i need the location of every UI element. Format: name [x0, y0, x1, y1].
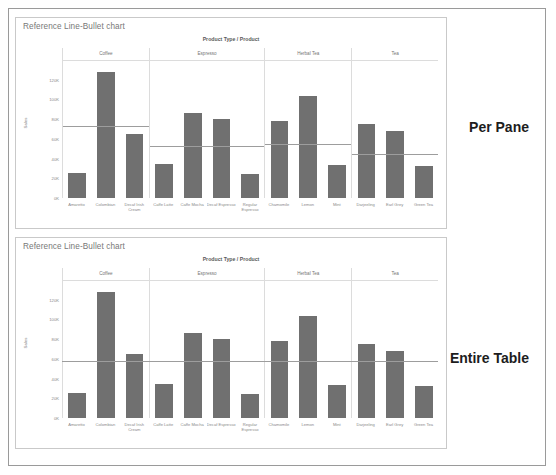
bar-slot	[294, 280, 323, 418]
chart-per-pane[interactable]: Reference Line-Bullet chart Product Type…	[15, 17, 447, 229]
pane-herbal-tea[interactable]: Herbal Tea	[264, 48, 351, 198]
bar-slot	[207, 60, 236, 198]
bar-earl-grey[interactable]	[386, 131, 404, 198]
y-tick-label: 40K	[52, 156, 59, 161]
pane-container-per-pane: CoffeeEspressoHerbal TeaTea	[62, 48, 438, 198]
pane-espresso[interactable]: Espresso	[149, 268, 264, 418]
x-tick-label: Decaf Irish Cream	[120, 420, 149, 444]
bar-green-tea[interactable]	[415, 166, 433, 198]
bar-regular-espresso[interactable]	[241, 174, 259, 198]
bar-caffe-latte[interactable]	[155, 384, 173, 419]
bar-lemon[interactable]	[299, 96, 317, 198]
y-tick-label: 60K	[52, 136, 59, 141]
pane-tea[interactable]: Tea	[351, 268, 438, 418]
y-tick-label: 100K	[49, 317, 59, 322]
x-axis-pane: DarjeelingEarl GreyGreen Tea	[351, 420, 438, 444]
bar-mint[interactable]	[328, 385, 346, 419]
x-axis-pane: ChamomileLemonMint	[264, 200, 351, 224]
bar-caffe-mocha[interactable]	[184, 113, 202, 198]
annotation-entire-table: Entire Table	[450, 350, 529, 366]
bar-colombian[interactable]	[97, 72, 115, 198]
x-tick-label: Caffe Latte	[149, 420, 178, 444]
x-tick-label: Earl Grey	[380, 200, 409, 224]
y-tick-label: 80K	[52, 117, 59, 122]
bar-slot	[294, 60, 323, 198]
bar-slot	[178, 60, 207, 198]
x-tick-label: Decaf Espresso	[207, 420, 236, 444]
bar-decaf-irish-cream[interactable]	[126, 134, 144, 198]
reference-line-coffee	[63, 126, 149, 127]
bar-lemon[interactable]	[299, 316, 317, 418]
x-tick-label: Chamomile	[264, 420, 293, 444]
bar-mint[interactable]	[328, 165, 346, 199]
bar-chamomile[interactable]	[271, 121, 289, 198]
x-axis-per-pane: AmarettoColombianDecaf Irish CreamCaffe …	[62, 200, 438, 224]
bar-amaretto[interactable]	[68, 173, 86, 198]
x-tick-label: Caffe Mocha	[178, 420, 207, 444]
bar-decaf-espresso[interactable]	[213, 339, 231, 418]
bar-slot	[236, 60, 265, 198]
x-tick-label: Decaf Irish Cream	[120, 200, 149, 224]
pane-tea[interactable]: Tea	[351, 48, 438, 198]
bar-colombian[interactable]	[97, 292, 115, 418]
x-tick-label: Regular Espresso	[236, 200, 265, 224]
bar-darjeeling[interactable]	[358, 124, 376, 198]
reference-line-entire-table	[62, 361, 438, 362]
x-tick-label: Colombian	[91, 200, 120, 224]
bar-decaf-espresso[interactable]	[213, 119, 231, 198]
bar-slot	[409, 280, 438, 418]
y-tick-label: 120K	[49, 77, 59, 82]
chart-title-entire-table: Reference Line-Bullet chart	[23, 242, 125, 251]
bar-slot	[150, 60, 179, 198]
x-tick-label: Darjeeling	[351, 200, 380, 224]
x-tick-label: Mint	[322, 200, 351, 224]
bar-darjeeling[interactable]	[358, 344, 376, 418]
pane-body	[63, 280, 149, 418]
x-axis-pane: Caffe LatteCaffe MochaDecaf EspressoRegu…	[149, 200, 265, 224]
bar-slot	[63, 60, 92, 198]
reference-line-tea	[352, 154, 438, 155]
pane-body	[265, 280, 351, 418]
x-tick-label: Green Tea	[409, 420, 438, 444]
bar-regular-espresso[interactable]	[241, 394, 259, 418]
x-axis-pane: ChamomileLemonMint	[264, 420, 351, 444]
bar-slot	[150, 280, 179, 418]
y-axis-title-per-pane: Sales	[23, 118, 28, 129]
pane-espresso[interactable]: Espresso	[149, 48, 264, 198]
bar-slot	[409, 60, 438, 198]
x-tick-label: Mint	[322, 420, 351, 444]
pane-body	[352, 280, 438, 418]
y-tick-label: 120K	[49, 297, 59, 302]
bar-green-tea[interactable]	[415, 386, 433, 418]
x-tick-label: Colombian	[91, 420, 120, 444]
pane-body	[150, 60, 264, 198]
bar-caffe-latte[interactable]	[155, 164, 173, 199]
pane-coffee[interactable]: Coffee	[62, 48, 149, 198]
chart-entire-table[interactable]: Reference Line-Bullet chart Product Type…	[15, 237, 447, 449]
chart-title-per-pane: Reference Line-Bullet chart	[23, 22, 125, 31]
bar-caffe-mocha[interactable]	[184, 333, 202, 418]
bar-slot	[381, 280, 410, 418]
bar-decaf-irish-cream[interactable]	[126, 354, 144, 418]
column-field-title-entire-table: Product Type / Product	[16, 256, 446, 262]
page-frame: Reference Line-Bullet chart Product Type…	[8, 8, 546, 466]
x-tick-label: Caffe Mocha	[178, 200, 207, 224]
bar-slot	[236, 280, 265, 418]
y-axis-title-entire-table: Sales	[23, 338, 28, 349]
bar-chamomile[interactable]	[271, 341, 289, 418]
x-axis-pane: AmarettoColombianDecaf Irish Cream	[62, 420, 149, 444]
bar-slot	[265, 60, 294, 198]
bar-slot	[92, 60, 121, 198]
bar-amaretto[interactable]	[68, 393, 86, 418]
bar-slot	[352, 60, 381, 198]
bar-slot	[323, 60, 352, 198]
x-tick-label: Amaretto	[62, 420, 91, 444]
y-tick-label: 60K	[52, 356, 59, 361]
pane-herbal-tea[interactable]: Herbal Tea	[264, 268, 351, 418]
bar-slot	[323, 280, 352, 418]
pane-body	[63, 60, 149, 198]
reference-line-herbal-tea	[265, 144, 351, 145]
pane-coffee[interactable]: Coffee	[62, 268, 149, 418]
x-axis-pane: DarjeelingEarl GreyGreen Tea	[351, 200, 438, 224]
bar-slot	[178, 280, 207, 418]
